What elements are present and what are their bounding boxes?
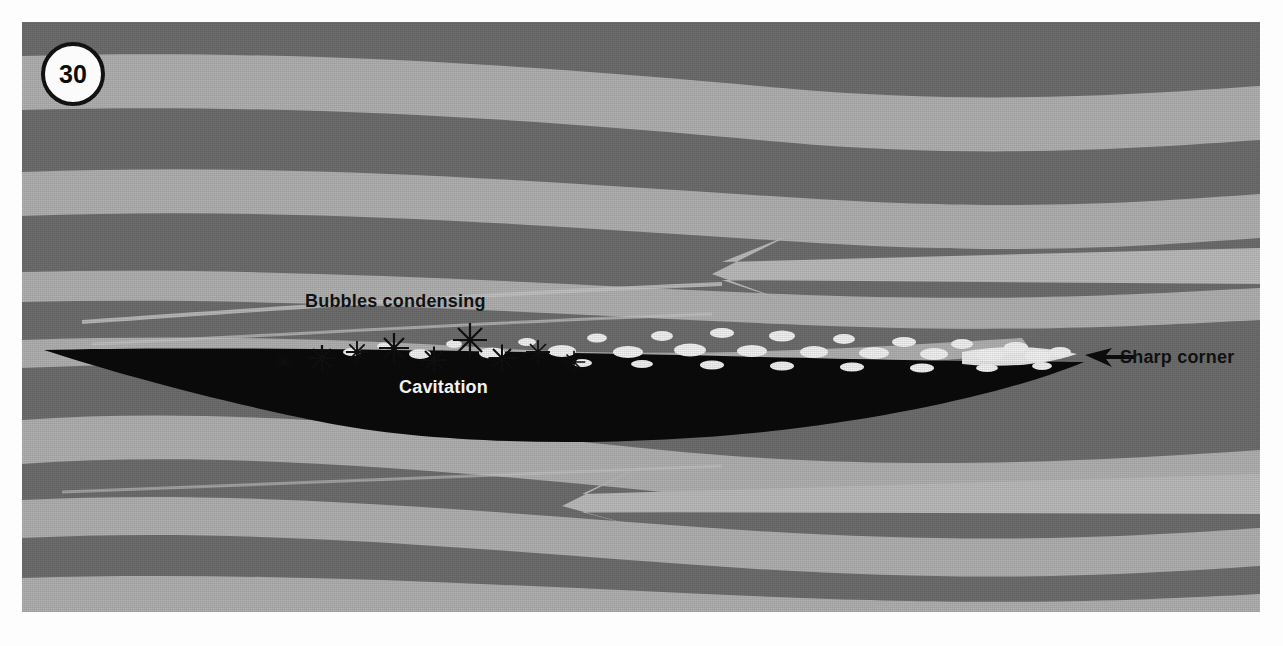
label-sharp-corner: Sharp corner [1120,347,1234,368]
figure-number-badge: 30 [41,42,105,106]
figure-number: 30 [59,62,87,87]
figure-canvas: 30 Bubbles condensing Cavitation Sharp c… [0,0,1283,646]
label-bubbles-condensing: Bubbles condensing [305,291,486,312]
label-cavitation: Cavitation [393,376,494,400]
illustration-frame [22,22,1260,612]
cavitation-illustration [22,22,1260,612]
